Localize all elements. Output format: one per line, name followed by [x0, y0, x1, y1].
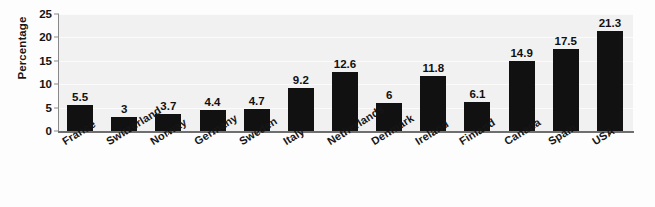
y-tick-label: 0 — [22, 125, 52, 137]
bar-value-label: 21.3 — [588, 17, 632, 29]
bar-value-label: 14.9 — [500, 47, 544, 59]
bar-group[interactable]: 21.3 — [588, 0, 632, 131]
bar-value-label: 11.8 — [411, 62, 455, 74]
bar-value-label: 17.5 — [544, 35, 588, 47]
bar-value-label: 6 — [367, 89, 411, 101]
bar-group[interactable]: 17.5 — [544, 0, 588, 131]
x-axis-category-labels: FranceSwitzerlandNorwayGermanySwedenItal… — [58, 133, 632, 207]
bar-value-label: 9.2 — [279, 74, 323, 86]
y-tick-label: 20 — [22, 31, 52, 43]
bar-group[interactable]: 12.6 — [323, 0, 367, 131]
y-tick-label: 25 — [22, 8, 52, 20]
bar-value-label: 12.6 — [323, 58, 367, 70]
bar-group[interactable]: 3 — [102, 0, 146, 131]
bar[interactable] — [553, 49, 579, 131]
bar-group[interactable]: 11.8 — [411, 0, 455, 131]
bar-group[interactable]: 4.4 — [190, 0, 234, 131]
bar-value-label: 4.4 — [190, 96, 234, 108]
bar-group[interactable]: 9.2 — [279, 0, 323, 131]
y-tick-label: 15 — [22, 55, 52, 67]
bar-group[interactable]: 6.1 — [455, 0, 499, 131]
y-axis-tick-labels: 0510152025 — [22, 0, 52, 207]
bar[interactable] — [597, 31, 623, 131]
y-tick-label: 5 — [22, 102, 52, 114]
bar-group[interactable]: 14.9 — [500, 0, 544, 131]
bar-value-label: 6.1 — [455, 88, 499, 100]
bar-group[interactable]: 5.5 — [58, 0, 102, 131]
bar-value-label: 4.7 — [235, 95, 279, 107]
y-tick-label: 10 — [22, 78, 52, 90]
bar-group[interactable]: 4.7 — [235, 0, 279, 131]
bar-value-label: 5.5 — [58, 91, 102, 103]
bar-chart: Percentage 0510152025 5.533.74.44.79.212… — [0, 0, 655, 207]
